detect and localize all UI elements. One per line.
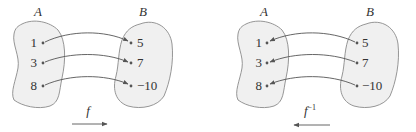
set-b-label: B (139, 4, 147, 19)
set-b-region (115, 22, 173, 107)
element-b-neg10: −10 (137, 78, 157, 93)
dot-b-7 (130, 62, 133, 65)
element-a-3: 3 (31, 55, 38, 70)
function-label-f-inverse: f−1 (304, 103, 316, 118)
dot-a-1 (266, 42, 269, 45)
element-b-7: 7 (137, 55, 144, 70)
element-b-7: 7 (362, 55, 369, 70)
set-a-label: A (259, 4, 268, 19)
element-b-5: 5 (137, 35, 144, 50)
dot-b-neg10 (130, 85, 133, 88)
dot-a-8 (42, 85, 45, 88)
function-diagrams: A B 1 3 8 5 7 −10 f A B 1 3 8 (0, 0, 416, 132)
element-b-5: 5 (362, 35, 369, 50)
set-a-region (13, 21, 65, 107)
set-a-label: A (33, 4, 42, 19)
dot-a-3 (266, 62, 269, 65)
set-b-label: B (366, 4, 374, 19)
dot-a-3 (42, 62, 45, 65)
set-a-region (237, 21, 289, 107)
element-a-8: 8 (256, 78, 263, 93)
diagram-f: A B 1 3 8 5 7 −10 f (13, 4, 173, 124)
element-a-1: 1 (31, 35, 38, 50)
dot-b-5 (130, 42, 133, 45)
function-label-f: f (86, 103, 92, 118)
element-b-neg10: −10 (362, 78, 382, 93)
element-a-1: 1 (256, 35, 263, 50)
element-a-3: 3 (256, 55, 263, 70)
dot-b-7 (356, 62, 359, 65)
dot-a-8 (266, 85, 269, 88)
dot-b-neg10 (356, 85, 359, 88)
element-a-8: 8 (31, 78, 38, 93)
diagram-f-inverse: A B 1 3 8 5 7 −10 f−1 (237, 4, 399, 125)
dot-b-5 (356, 42, 359, 45)
dot-a-1 (42, 42, 45, 45)
set-b-region (341, 22, 399, 107)
